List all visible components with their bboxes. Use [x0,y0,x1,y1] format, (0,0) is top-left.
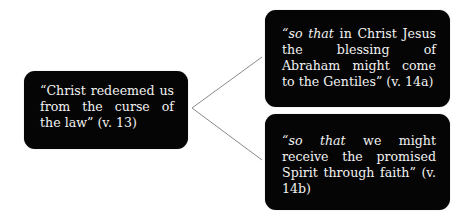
target-node-text: “so that we might receive the promised S… [282,133,436,197]
source-node-text: “Christ redeemed us from the curse of th… [40,83,174,131]
connector-to-bottom [192,108,262,160]
target-node-verse-14b: “so that we might receive the promised S… [265,114,450,210]
source-node-verse-13: “Christ redeemed us from the curse of th… [24,71,188,149]
italic-lead: “so that [282,133,346,148]
connector-to-top [192,57,262,108]
italic-lead: “so that [282,26,334,41]
target-node-text: “so that in Christ Jesus the blessing of… [282,26,436,90]
target-node-verse-14a: “so that in Christ Jesus the blessing of… [265,10,450,107]
